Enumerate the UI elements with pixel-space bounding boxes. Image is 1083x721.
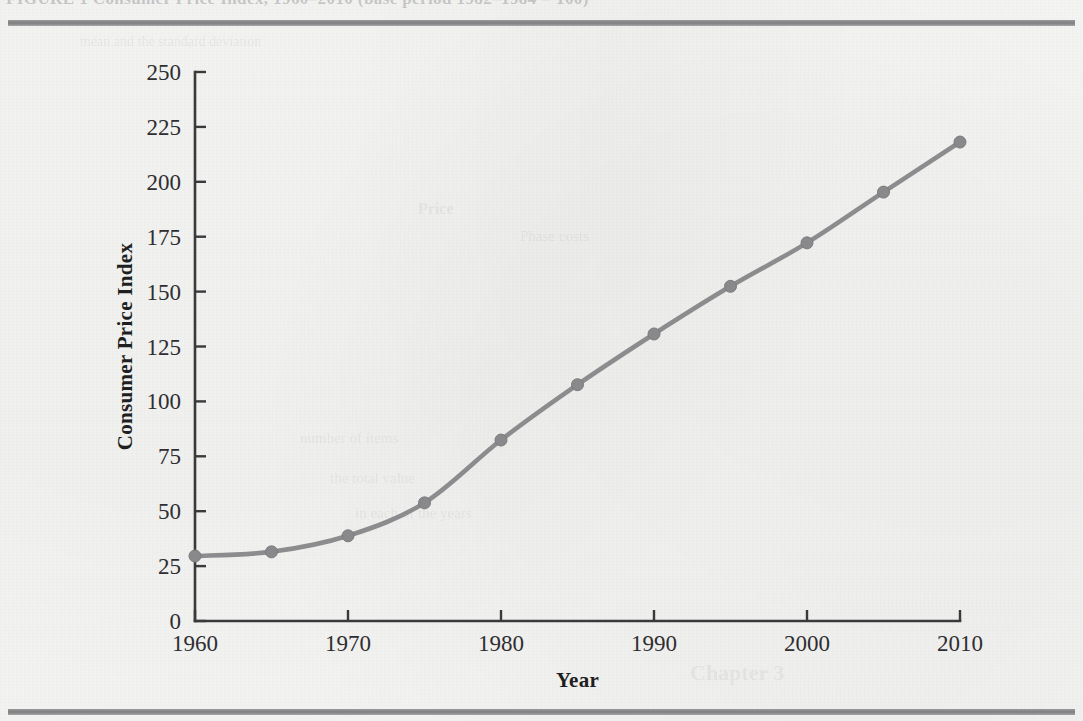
y-tick-label: 125: [147, 335, 182, 360]
data-point-marker: [725, 280, 737, 292]
data-point-marker: [878, 186, 890, 198]
y-axis-ticks: 0255075100125150175200225250: [147, 60, 207, 634]
x-tick-label: 1960: [172, 631, 218, 656]
data-point-marker: [266, 546, 278, 558]
data-point-marker: [801, 237, 813, 249]
data-point-marker: [572, 379, 584, 391]
x-tick-label: 1990: [631, 631, 677, 656]
figure-caption-text: FIGURE 1 Consumer Price Index, 1960–2010…: [6, 0, 589, 9]
y-tick-label: 175: [147, 225, 182, 250]
x-tick-label: 1970: [325, 631, 371, 656]
cpi-series-markers: [189, 136, 966, 562]
x-tick-label: 1980: [478, 631, 524, 656]
y-tick-label: 250: [147, 60, 182, 85]
x-axis-title: Year: [556, 668, 599, 692]
data-point-marker: [648, 328, 660, 340]
data-point-marker: [495, 434, 507, 446]
data-point-marker: [419, 497, 431, 509]
cpi-series-line: [195, 142, 960, 556]
figure-page: FIGURE 1 Consumer Price Index, 1960–2010…: [0, 0, 1083, 721]
cpi-line-chart: 0255075100125150175200225250 19601970198…: [0, 26, 1083, 706]
y-tick-label: 150: [147, 280, 182, 305]
y-tick-label: 50: [158, 499, 181, 524]
figure-caption-cutoff: FIGURE 1 Consumer Price Index, 1960–2010…: [0, 0, 1083, 18]
y-tick-label: 100: [147, 389, 182, 414]
y-tick-label: 25: [158, 554, 181, 579]
data-point-marker: [954, 136, 966, 148]
rule-bottom: [8, 709, 1075, 715]
y-tick-label: 225: [147, 115, 182, 140]
chart-area: 0255075100125150175200225250 19601970198…: [0, 26, 1083, 706]
data-point-marker: [189, 550, 201, 562]
axes-group: [195, 72, 960, 621]
x-tick-label: 2000: [784, 631, 830, 656]
y-axis-title: Consumer Price Index: [113, 243, 137, 451]
y-tick-label: 75: [158, 444, 181, 469]
x-tick-label: 2010: [937, 631, 983, 656]
x-axis-ticks: 196019701980199020002010: [172, 610, 983, 656]
data-point-marker: [342, 530, 354, 542]
y-tick-label: 200: [147, 170, 182, 195]
